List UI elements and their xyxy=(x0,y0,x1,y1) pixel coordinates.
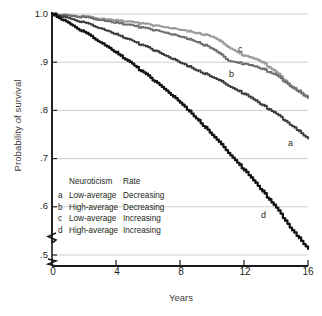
legend-key-d: d xyxy=(58,225,69,236)
y-tick-2: .9 xyxy=(22,56,48,67)
curve-label-a: a xyxy=(288,138,293,148)
curve-c xyxy=(52,13,308,96)
legend-neuroticism-d: High-average xyxy=(69,225,123,236)
curve-label-b: b xyxy=(229,69,234,79)
survival-chart: Probability of survival 1.0 .9 .8 .7 .6 … xyxy=(0,0,322,316)
y-tick-4: .7 xyxy=(22,152,48,163)
x-tick-4: 12 xyxy=(233,266,257,277)
legend-row: c Low-average Increasing xyxy=(58,213,173,224)
legend-header-rate: Rate xyxy=(123,176,173,190)
legend-row: b High-average Decreasing xyxy=(58,202,173,213)
curve-label-c: c xyxy=(238,44,243,54)
curve-label-d: d xyxy=(261,210,266,220)
curve-b xyxy=(52,13,308,98)
legend-row: d High-average Increasing xyxy=(58,225,173,236)
x-tick-2: 4 xyxy=(105,266,129,277)
curve-a xyxy=(52,14,308,139)
legend-key-a: a xyxy=(58,190,69,201)
y-tick-5: .6 xyxy=(22,200,48,211)
x-tick-3: 8 xyxy=(169,266,193,277)
x-tick-1: 0 xyxy=(41,266,65,277)
legend-rate-b: Decreasing xyxy=(123,202,173,213)
legend-neuroticism-b: High-average xyxy=(69,202,123,213)
legend-key-b: b xyxy=(58,202,69,213)
legend-rate-d: Increasing xyxy=(123,225,173,236)
y-tick-6: .5 xyxy=(22,249,48,260)
legend-header-key xyxy=(58,176,69,190)
legend-header-row: Neuroticism Rate xyxy=(58,176,173,190)
legend-neuroticism-a: Low-average xyxy=(69,190,123,201)
x-axis-title: Years xyxy=(52,292,310,303)
x-axis-tick-labels: 0 4 8 12 16 xyxy=(0,266,322,284)
legend-row: a Low-average Decreasing xyxy=(58,190,173,201)
x-tick-5: 16 xyxy=(296,266,320,277)
legend: Neuroticism Rate a Low-average Decreasin… xyxy=(58,176,173,236)
legend-neuroticism-c: Low-average xyxy=(69,213,123,224)
legend-header-neuroticism: Neuroticism xyxy=(69,176,123,190)
y-tick-3: .8 xyxy=(22,104,48,115)
legend-rate-a: Decreasing xyxy=(123,190,173,201)
y-tick-1: 1.0 xyxy=(22,8,48,19)
legend-rate-c: Increasing xyxy=(123,213,173,224)
legend-key-c: c xyxy=(58,213,69,224)
